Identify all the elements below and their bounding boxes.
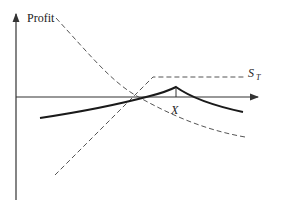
x-axis-label: S	[248, 66, 254, 80]
strike-label: X	[170, 103, 179, 117]
dashed-call-payoff	[55, 77, 246, 175]
profit-diagram: Profit X S T	[0, 0, 282, 213]
x-axis-label-subscript: T	[256, 73, 261, 82]
y-axis-label: Profit	[27, 11, 55, 25]
bold-profit-curve	[40, 87, 243, 118]
